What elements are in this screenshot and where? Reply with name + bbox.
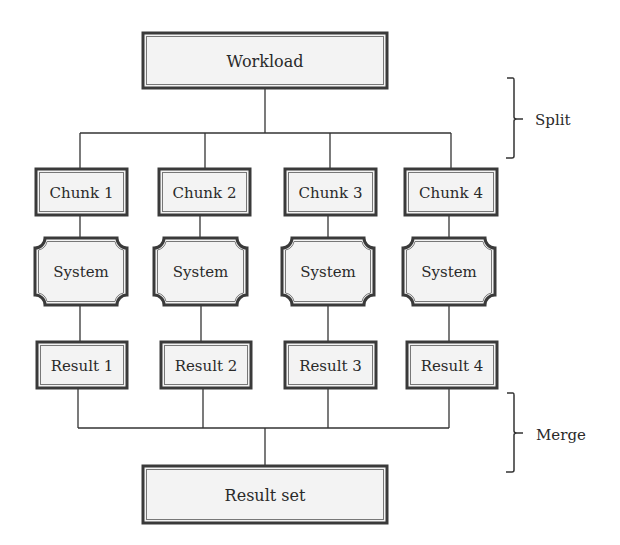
split-label: Split — [535, 111, 571, 129]
system-1-label: System — [53, 263, 109, 281]
system-2-label: System — [173, 263, 229, 281]
result-1-label: Result 1 — [51, 357, 114, 375]
system-4-label: System — [421, 263, 477, 281]
split-brace-icon — [506, 78, 523, 158]
chunk-4-label: Chunk 4 — [419, 184, 483, 202]
connectors — [78, 88, 451, 466]
result-2-box: Result 2 — [161, 342, 251, 388]
column-4: Chunk 4 System Result 4 — [403, 169, 497, 388]
chunk-4-box: Chunk 4 — [405, 169, 497, 215]
split-brace: Split — [506, 78, 571, 158]
result-3-label: Result 3 — [299, 357, 362, 375]
chunk-1-box: Chunk 1 — [36, 169, 127, 215]
chunk-2-box: Chunk 2 — [159, 169, 250, 215]
chunk-3-label: Chunk 3 — [299, 184, 363, 202]
system-3-box: System — [282, 238, 374, 305]
result-set-box: Result set — [143, 466, 387, 523]
chunk-2-label: Chunk 2 — [173, 184, 237, 202]
system-1-box: System — [35, 238, 127, 305]
result-4-label: Result 4 — [421, 357, 484, 375]
result-1-box: Result 1 — [37, 342, 127, 388]
merge-brace: Merge — [506, 393, 586, 472]
column-3: Chunk 3 System Result 3 — [282, 169, 376, 388]
system-2-box: System — [154, 238, 247, 305]
column-1: Chunk 1 System Result 1 — [35, 169, 127, 388]
column-2: Chunk 2 System Result 2 — [154, 169, 251, 388]
system-3-label: System — [300, 263, 356, 281]
result-3-box: Result 3 — [285, 342, 376, 388]
workload-label: Workload — [227, 52, 304, 71]
workload-box: Workload — [143, 33, 387, 88]
result-set-label: Result set — [225, 486, 306, 505]
merge-label: Merge — [536, 426, 586, 444]
chunk-1-label: Chunk 1 — [50, 184, 114, 202]
split-merge-diagram: Workload Chunk 1 System Result 1 Chunk 2 — [0, 0, 620, 545]
system-4-box: System — [403, 238, 495, 305]
chunk-3-box: Chunk 3 — [285, 169, 376, 215]
result-2-label: Result 2 — [175, 357, 238, 375]
result-4-box: Result 4 — [407, 342, 497, 388]
merge-brace-icon — [506, 393, 523, 472]
